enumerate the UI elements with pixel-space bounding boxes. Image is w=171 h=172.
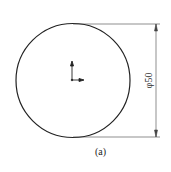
dimension-label: φ50 (143, 73, 154, 89)
arrowhead-top (155, 24, 158, 31)
figure-caption: (a) (0, 146, 171, 157)
origin-axes-icon (71, 61, 85, 82)
caption-text: (a) (95, 146, 106, 157)
arrowhead-bottom (155, 130, 158, 137)
